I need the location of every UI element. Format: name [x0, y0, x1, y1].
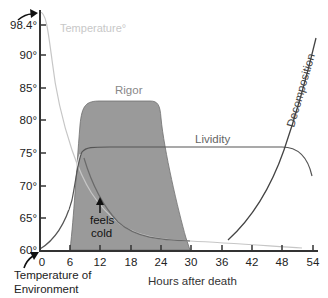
svg-text:cold: cold: [91, 227, 112, 239]
y-tick-label: 90°: [20, 49, 37, 61]
x-tick-label: 36: [216, 256, 229, 268]
y-tick-label: 75°: [20, 147, 37, 159]
y-tick-label: 85°: [20, 82, 37, 94]
x-tick-label: 12: [94, 256, 107, 268]
environment-label-line1: Temperature of: [14, 269, 92, 281]
lividity-label: Lividity: [195, 133, 230, 145]
y-tick-label: 70°: [20, 180, 37, 192]
x-axis-title: Hours after death: [148, 275, 237, 287]
rigor-area: [70, 101, 190, 250]
arrow-icon: [30, 252, 39, 260]
x-tick-label: 30: [185, 256, 198, 268]
x-tick-label: 48: [276, 256, 289, 268]
y-tick-label: 80°: [20, 114, 37, 126]
environment-label-line2: Environment: [14, 283, 79, 295]
y-tick-label: 98.4°: [10, 19, 37, 31]
temperature-label: Temperature°: [60, 22, 126, 34]
postmortem-changes-chart: 98.4° 90° 85° 80° 75° 70° 65° 60° 0 6 12…: [0, 0, 328, 298]
x-tick-label: 6: [67, 256, 73, 268]
x-tick-label: 0: [39, 256, 45, 268]
decomposition-label: Decomposition: [284, 52, 317, 128]
x-tick-label: 18: [125, 256, 138, 268]
x-tick-label: 24: [155, 256, 168, 268]
y-tick-label: 65°: [20, 212, 37, 224]
x-tick-label: 54: [307, 256, 320, 268]
x-tick-label: 42: [246, 256, 259, 268]
arrow-icon: [30, 9, 38, 18]
rigor-label: Rigor: [115, 84, 143, 96]
svg-text:feels: feels: [90, 214, 115, 226]
